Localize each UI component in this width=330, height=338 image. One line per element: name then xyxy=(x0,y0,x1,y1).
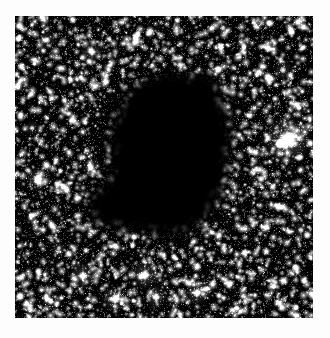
star-field-canvas xyxy=(15,16,313,318)
sky-image-plate xyxy=(15,16,313,318)
figure-page xyxy=(0,0,330,338)
